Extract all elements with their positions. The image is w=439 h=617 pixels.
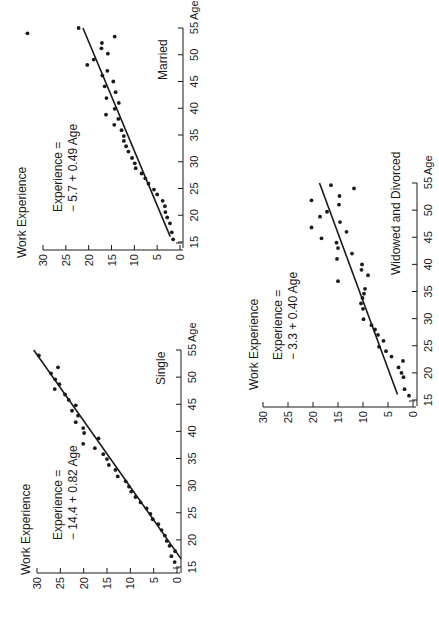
data-point	[360, 268, 364, 272]
regression-equation-line2: − 14.4 + 0.82 Age	[66, 445, 80, 540]
data-point	[161, 199, 165, 203]
scatter-figure: 051015202530152025303540455055AgeWork Ex…	[0, 0, 439, 617]
data-point	[92, 58, 96, 62]
experience-tick-label: 5	[382, 411, 394, 417]
data-point	[81, 442, 85, 446]
age-axis-label: Age	[186, 322, 198, 342]
data-point	[63, 393, 67, 397]
data-point	[70, 409, 74, 413]
data-point	[370, 323, 374, 327]
data-point	[329, 183, 333, 187]
age-axis-label: Age	[188, 0, 200, 20]
data-point	[124, 144, 128, 148]
data-point	[403, 387, 407, 391]
data-point	[120, 128, 124, 132]
data-point	[362, 317, 366, 321]
data-point	[133, 161, 137, 165]
data-point	[376, 333, 380, 337]
experience-tick-label: 30	[257, 411, 269, 423]
data-point	[126, 150, 130, 154]
data-point	[390, 355, 394, 359]
data-point	[49, 371, 53, 375]
age-axis-label: Age	[422, 155, 434, 175]
data-point	[124, 479, 128, 483]
data-point	[366, 273, 370, 277]
data-point	[101, 452, 105, 456]
panel-label: Widowed and Divorced	[389, 152, 403, 275]
regression-line	[320, 183, 398, 395]
panel-label: Single	[154, 351, 168, 385]
age-tick-label: 50	[186, 371, 198, 383]
data-point	[336, 279, 340, 283]
data-point	[103, 84, 107, 88]
data-point	[156, 522, 160, 526]
data-point	[112, 123, 116, 127]
data-point	[106, 52, 110, 56]
data-point	[400, 371, 404, 375]
age-tick-label: 25	[188, 182, 200, 194]
data-point	[100, 74, 104, 78]
experience-tick-label: 5	[151, 254, 163, 260]
data-point	[116, 117, 120, 121]
data-point	[165, 215, 169, 219]
age-tick-label: 40	[188, 102, 200, 114]
data-point	[122, 134, 126, 138]
data-point	[149, 512, 153, 516]
data-point	[335, 257, 339, 261]
data-point	[143, 176, 147, 180]
experience-tick-label: 15	[332, 411, 344, 423]
age-tick-label: 25	[186, 507, 198, 519]
experience-tick-label: 15	[101, 577, 113, 589]
panel-widowed-divorced: 051015202530152025303540455055AgeWork Ex…	[247, 152, 434, 424]
age-tick-label: 25	[422, 340, 434, 352]
panel-married: 051015202530152025303540455055AgeWork Ex…	[15, 0, 200, 266]
experience-tick-label: 10	[128, 254, 140, 266]
age-tick-label: 15	[422, 394, 434, 406]
data-point	[104, 113, 108, 117]
data-point	[325, 210, 329, 214]
data-point	[163, 534, 167, 538]
experience-tick-label: 30	[31, 577, 43, 589]
data-point	[168, 221, 172, 225]
data-point	[117, 101, 121, 105]
experience-tick-label: 10	[357, 411, 369, 423]
data-point	[402, 375, 406, 379]
data-point	[173, 560, 177, 564]
age-tick-label: 55	[188, 22, 200, 34]
data-point	[171, 237, 175, 241]
experience-tick-label: 0	[407, 411, 419, 417]
age-tick-label: 45	[186, 398, 198, 410]
data-point	[37, 354, 41, 358]
data-point	[345, 230, 349, 234]
age-tick-label: 40	[422, 258, 434, 270]
data-point	[361, 296, 365, 300]
experience-axis-title: Work Experience	[19, 484, 33, 575]
data-point	[397, 366, 401, 370]
data-point	[152, 188, 156, 192]
data-point	[113, 107, 117, 111]
data-point	[318, 215, 322, 219]
age-tick-label: 35	[188, 129, 200, 141]
experience-tick-label: 0	[174, 254, 186, 260]
experience-tick-label: 20	[83, 254, 95, 266]
panel-single: 051015202530152025303540455055AgeWork Ex…	[19, 322, 198, 589]
experience-tick-label: 25	[282, 411, 294, 423]
data-point	[320, 236, 324, 240]
age-tick-label: 20	[188, 209, 200, 221]
experience-axis-title: Work Experience	[15, 167, 29, 258]
regression-equation-line1: Experience =	[51, 142, 65, 212]
data-point	[155, 192, 159, 196]
data-point	[111, 80, 115, 84]
data-point	[77, 26, 81, 30]
data-point	[122, 139, 126, 143]
data-point	[134, 495, 138, 499]
regression-equation-line1: Experience =	[51, 470, 65, 540]
experience-tick-label: 15	[106, 254, 118, 266]
age-tick-label: 30	[422, 313, 434, 325]
regression-equation-line2: − 3.3 + 0.40 Age	[286, 272, 300, 360]
data-point	[168, 544, 172, 548]
data-point	[130, 156, 134, 160]
data-point	[107, 463, 111, 467]
regression-equation-line1: Experience =	[271, 290, 285, 360]
data-point	[335, 241, 339, 245]
